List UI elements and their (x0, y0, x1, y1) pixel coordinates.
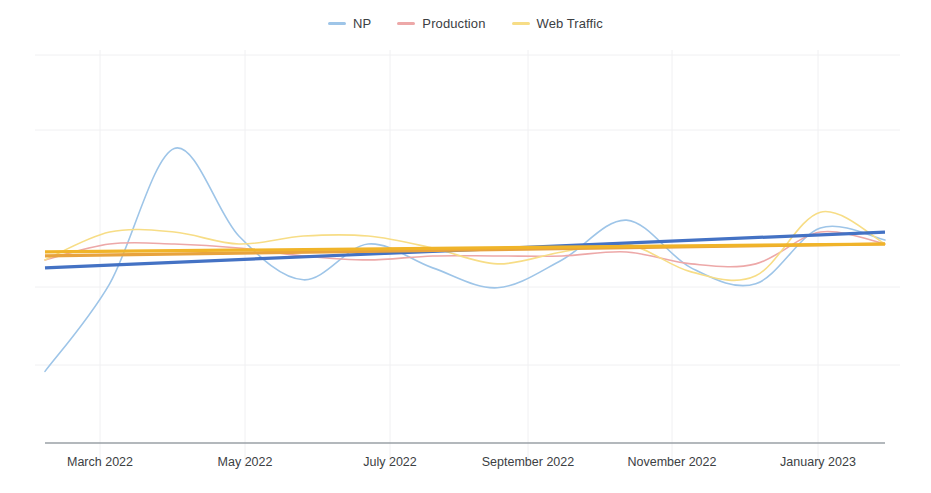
x-tick-label-2: July 2022 (363, 455, 417, 469)
x-tick-label-1: May 2022 (218, 455, 273, 469)
x-tick-label-0: March 2022 (67, 455, 133, 469)
series-lines (45, 148, 885, 371)
x-tick-label-5: January 2023 (780, 455, 856, 469)
chart-svg: March 2022May 2022July 2022September 202… (0, 0, 931, 493)
x-tick-label-3: September 2022 (482, 455, 574, 469)
plot-area: March 2022May 2022July 2022September 202… (0, 0, 931, 493)
x-axis-labels: March 2022May 2022July 2022September 202… (67, 455, 856, 469)
line-chart: NP Production Web Traffic March 2022May … (0, 0, 931, 493)
series-line-0 (45, 148, 885, 371)
x-tick-label-4: November 2022 (628, 455, 717, 469)
gridlines (35, 50, 900, 468)
